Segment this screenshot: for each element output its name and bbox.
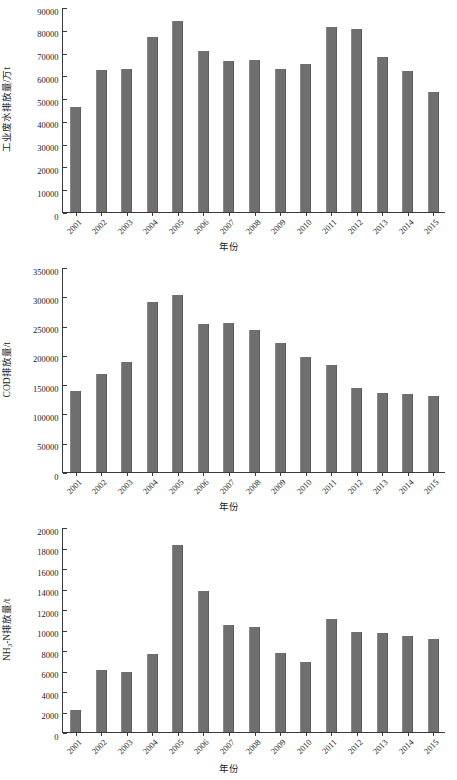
plot-axes-area: 0100002000030000400005000060000700008000… bbox=[62, 8, 445, 213]
x-axis-tick-label: 2007 bbox=[213, 738, 236, 761]
x-axis-tick-mark bbox=[408, 472, 409, 476]
x-axis-tick-mark bbox=[331, 472, 332, 476]
x-axis-tick-label: 2001 bbox=[60, 218, 83, 241]
x-axis-tick-label: 2006 bbox=[188, 478, 211, 501]
y-axis-tick-label: 150000 bbox=[33, 385, 63, 394]
bar bbox=[300, 662, 311, 732]
y-axis-tick-mark bbox=[63, 76, 67, 77]
x-axis-tick-label: 2009 bbox=[264, 218, 287, 241]
y-axis-tick-mark bbox=[63, 297, 67, 298]
bar bbox=[198, 51, 209, 212]
x-axis-tick-mark bbox=[76, 732, 77, 736]
bar bbox=[198, 324, 209, 472]
bar bbox=[428, 639, 439, 732]
x-axis-tick-mark bbox=[203, 472, 204, 476]
y-axis-tick-label: 0 bbox=[54, 213, 63, 222]
x-axis-tick-label: 2007 bbox=[213, 218, 236, 241]
x-axis-tick-mark bbox=[203, 212, 204, 216]
y-axis-tick-label: 12000 bbox=[37, 610, 63, 619]
y-axis-tick-label: 8000 bbox=[42, 651, 64, 660]
x-axis-tick-label: 2002 bbox=[86, 478, 109, 501]
x-axis-tick-mark bbox=[255, 472, 256, 476]
x-axis-tick-mark bbox=[255, 732, 256, 736]
x-axis-tick-mark bbox=[127, 732, 128, 736]
y-axis-tick-label: 40000 bbox=[37, 122, 63, 131]
y-axis-tick-label: 350000 bbox=[33, 268, 63, 277]
x-axis-tick-label: 2011 bbox=[315, 738, 338, 761]
y-axis-tick-label: 0 bbox=[54, 733, 63, 742]
x-axis-tick-mark bbox=[229, 472, 230, 476]
x-axis-tick-label: 2012 bbox=[341, 738, 364, 761]
bar bbox=[70, 710, 81, 732]
y-axis-tick-mark bbox=[63, 414, 67, 415]
bar bbox=[275, 343, 286, 472]
x-axis-tick-mark bbox=[280, 732, 281, 736]
bar bbox=[377, 393, 388, 472]
y-axis-tick-label: 14000 bbox=[37, 589, 63, 598]
y-axis-title: COD排放量/t bbox=[3, 309, 13, 429]
y-axis-tick-label: 10000 bbox=[37, 630, 63, 639]
x-axis-tick-label: 2008 bbox=[239, 738, 262, 761]
x-axis-tick-label: 2013 bbox=[366, 218, 389, 241]
y-axis-tick-label: 90000 bbox=[37, 8, 63, 17]
bar bbox=[172, 21, 183, 212]
x-axis-tick-label: 2010 bbox=[290, 478, 313, 501]
y-axis-tick-mark bbox=[63, 590, 67, 591]
x-axis-tick-mark bbox=[229, 212, 230, 216]
x-axis-tick-label: 2006 bbox=[188, 218, 211, 241]
x-axis-tick-mark bbox=[229, 732, 230, 736]
x-axis-tick-mark bbox=[408, 732, 409, 736]
x-axis-tick-mark bbox=[433, 472, 434, 476]
x-axis-tick-mark bbox=[382, 212, 383, 216]
bar bbox=[249, 330, 260, 472]
bar bbox=[121, 672, 132, 732]
bar bbox=[147, 302, 158, 472]
x-axis-tick-label: 2008 bbox=[239, 478, 262, 501]
x-axis-tick-label: 2001 bbox=[60, 478, 83, 501]
y-axis-tick-label: 70000 bbox=[37, 53, 63, 62]
bar bbox=[351, 632, 362, 732]
bar bbox=[96, 670, 107, 732]
x-axis-tick-mark bbox=[433, 212, 434, 216]
y-axis-tick-mark bbox=[63, 327, 67, 328]
y-axis-tick-mark bbox=[63, 122, 67, 123]
bar bbox=[351, 29, 362, 212]
bar bbox=[96, 374, 107, 472]
x-axis-tick-label: 2003 bbox=[111, 218, 134, 241]
x-axis-tick-mark bbox=[178, 212, 179, 216]
x-axis-tick-mark bbox=[203, 732, 204, 736]
x-axis-tick-label: 2013 bbox=[366, 738, 389, 761]
x-axis-title: 年份 bbox=[0, 765, 457, 775]
x-axis-tick-label: 2011 bbox=[315, 218, 338, 241]
x-axis-tick-label: 2004 bbox=[137, 478, 160, 501]
x-axis-tick-label: 2002 bbox=[86, 738, 109, 761]
y-axis-tick-mark bbox=[63, 713, 67, 714]
bar bbox=[428, 396, 439, 472]
x-axis-tick-label: 2005 bbox=[162, 738, 185, 761]
x-axis-tick-mark bbox=[152, 212, 153, 216]
y-axis-tick-mark bbox=[63, 473, 67, 474]
x-axis-tick-mark bbox=[382, 732, 383, 736]
x-axis-tick-mark bbox=[306, 732, 307, 736]
y-axis-tick-mark bbox=[63, 631, 67, 632]
y-axis-tick-mark bbox=[63, 213, 67, 214]
y-axis-tick-mark bbox=[63, 190, 67, 191]
x-axis-tick-label: 2008 bbox=[239, 218, 262, 241]
bar bbox=[121, 69, 132, 212]
bar bbox=[275, 69, 286, 213]
bar bbox=[147, 37, 158, 212]
y-axis-tick-mark bbox=[63, 268, 67, 269]
x-axis-tick-label: 2013 bbox=[366, 478, 389, 501]
y-axis-tick-mark bbox=[63, 651, 67, 652]
bar bbox=[377, 633, 388, 732]
bar bbox=[172, 295, 183, 472]
x-axis-tick-mark bbox=[178, 472, 179, 476]
plot-axes-area: 0200040006000800010000120001400016000180… bbox=[62, 528, 445, 733]
x-axis-tick-mark bbox=[127, 472, 128, 476]
y-axis-tick-mark bbox=[63, 99, 67, 100]
x-axis-tick-mark bbox=[152, 472, 153, 476]
bar bbox=[326, 619, 337, 732]
bar bbox=[326, 27, 337, 212]
x-axis-tick-label: 2015 bbox=[418, 218, 441, 241]
y-axis-tick-mark bbox=[63, 145, 67, 146]
